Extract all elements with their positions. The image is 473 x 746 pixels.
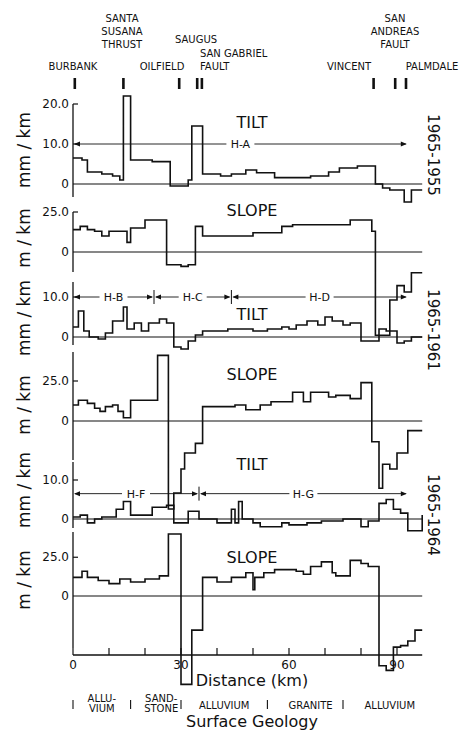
location-saugus xyxy=(196,78,199,89)
svg-text:H-A: H-A xyxy=(231,138,251,151)
data-step-line xyxy=(73,500,422,531)
y-tick-label: 0 xyxy=(61,177,69,191)
y-axis-label: mm / km xyxy=(14,112,34,188)
y-tick-label: 10.0 xyxy=(42,473,69,487)
surface-geology-title: Surface Geology xyxy=(186,712,318,731)
y-tick-label: 25.0 xyxy=(42,374,69,388)
panel-title: TILT xyxy=(236,455,268,474)
x-axis-label: Distance (km) xyxy=(196,671,308,690)
svg-text:H-G: H-G xyxy=(293,488,314,501)
panel-slope-1965-1955: 025.0m / kmSLOPE xyxy=(14,201,422,335)
location-marker-icon xyxy=(178,78,181,89)
geology-unit-label: GRANITE xyxy=(289,700,333,711)
y-tick-label: 0 xyxy=(61,414,69,428)
y-tick-label: 10.0 xyxy=(42,290,69,304)
location-label: VINCENT xyxy=(327,61,372,72)
location-label: FAULT xyxy=(380,39,410,50)
y-axis-label: m / km xyxy=(14,550,34,610)
location-marker-icon xyxy=(122,78,125,89)
location-santa-susana-thrust xyxy=(122,78,125,89)
y-axis-label: m / km xyxy=(14,208,34,268)
y-axis-label: m / km xyxy=(14,375,34,435)
location-burbank xyxy=(74,78,77,89)
location-label: THRUST xyxy=(101,39,143,50)
panel-tilt-1965-1964: 010.0mm / kmTILT1965-1964H-FH-G xyxy=(14,452,442,556)
geology-unit-label: ALLUVIUM xyxy=(199,700,250,711)
location-label: SANTA xyxy=(105,13,138,24)
surface-geology-row: ALLU-VIUMSAND-STONEALLUVIUMGRANITEALLUVI… xyxy=(73,693,415,714)
panel-tilt-1965-1961: 010.0mm / kmTILT1965-1961H-BH-CH-D xyxy=(14,280,442,371)
location-labels: BURBANKSANTASUSANATHRUSTOILFIELDSAUGUSSA… xyxy=(49,13,459,89)
chart-panels: 010.020.0mm / kmTILT1965-1955H-A025.0m /… xyxy=(14,96,442,684)
location-marker-icon xyxy=(394,78,397,89)
x-tick-label: 60 xyxy=(281,658,296,672)
location-label: ANDREAS xyxy=(371,26,419,37)
panel-title: SLOPE xyxy=(227,365,278,384)
y-tick-label: 0 xyxy=(61,589,69,603)
location-marker-icon xyxy=(372,78,375,89)
location-label: SUSANA xyxy=(101,26,143,37)
location-marker-icon xyxy=(201,78,204,89)
x-tick-label: 0 xyxy=(69,658,77,672)
location-palmdale xyxy=(405,78,408,89)
y-tick-label: 0 xyxy=(61,512,69,526)
y-tick-label: 10.0 xyxy=(42,137,69,151)
y-tick-label: 20.0 xyxy=(42,97,69,111)
location-label: SAUGUS xyxy=(175,34,217,45)
period-label: 1965-1955 xyxy=(424,114,442,196)
period-label: 1965-1961 xyxy=(424,289,442,371)
svg-text:H-D: H-D xyxy=(309,291,330,304)
distance-axis: 0306090 xyxy=(69,648,422,672)
svg-text:H-C: H-C xyxy=(183,291,203,304)
segment-h-c: H-C xyxy=(154,290,230,304)
panel-title: TILT xyxy=(236,305,268,324)
segment-h-d: H-D xyxy=(231,290,406,304)
panel-tilt-1965-1955: 010.020.0mm / kmTILT1965-1955H-A xyxy=(14,96,442,202)
segment-h-b: H-B xyxy=(74,291,153,304)
location-label: PALMDALE xyxy=(406,61,459,72)
location-label: SAN xyxy=(385,13,406,24)
geology-unit-label: VIUM xyxy=(89,703,115,714)
x-tick-label: 30 xyxy=(173,658,188,672)
location-marker-icon xyxy=(405,78,408,89)
period-label: 1965-1964 xyxy=(424,474,442,556)
location-vincent xyxy=(372,78,375,89)
panel-title: SLOPE xyxy=(227,201,278,220)
panel-slope-1965-1961: 025.0m / kmSLOPE xyxy=(14,352,422,509)
panel-title: SLOPE xyxy=(227,548,278,567)
y-tick-label: 25.0 xyxy=(42,205,69,219)
location-label: BURBANK xyxy=(49,61,98,72)
location-marker-icon xyxy=(196,78,199,89)
y-tick-label: 0 xyxy=(61,330,69,344)
y-axis-label: mm / km xyxy=(14,452,34,528)
location-label: OILFIELD xyxy=(140,61,185,72)
location-oilfield xyxy=(178,78,181,89)
geology-unit-label: STONE xyxy=(144,703,178,714)
panel-title: TILT xyxy=(236,113,268,132)
svg-text:H-F: H-F xyxy=(127,488,146,501)
geodetic-profile-figure: BURBANKSANTASUSANATHRUSTOILFIELDSAUGUSSA… xyxy=(0,0,473,746)
y-axis-label: mm / km xyxy=(14,280,34,356)
y-tick-label: 25.0 xyxy=(42,550,69,564)
location-san-gabriel-fault xyxy=(201,78,204,89)
svg-text:H-B: H-B xyxy=(104,291,123,304)
segment-h-g: H-G xyxy=(199,487,407,501)
segment-h-f: H-F xyxy=(74,488,198,501)
location-marker-icon xyxy=(74,78,77,89)
y-tick-label: 0 xyxy=(61,245,69,259)
geology-unit-label: ALLUVIUM xyxy=(365,700,416,711)
location-label: FAULT xyxy=(200,61,230,72)
location-san-andreas-fault xyxy=(394,78,397,89)
x-tick-label: 90 xyxy=(389,658,404,672)
location-label: SAN GABRIEL xyxy=(200,48,268,59)
